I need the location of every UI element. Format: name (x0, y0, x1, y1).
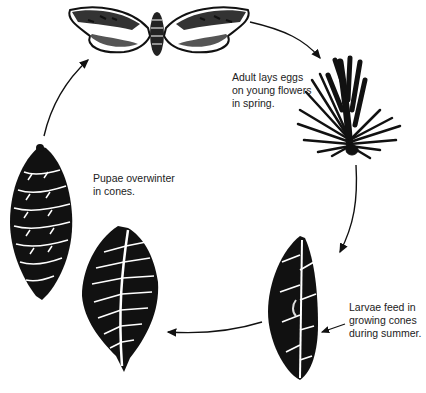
pine-shoot-icon (298, 58, 400, 158)
arrow-larvae-to-pupae (168, 322, 262, 333)
arrow-flower-to-larvae (340, 165, 356, 252)
arrow-pupae-to-adult (44, 60, 88, 136)
life-cycle-diagram: Adult lays eggs on young flowers in spri… (0, 0, 426, 393)
arrow-text-to-larvae (322, 324, 345, 332)
pupae-stage-label: Pupae overwinter in cones. (93, 172, 175, 198)
mature-cone-icon (10, 144, 72, 300)
larvae-stage-label: Larvae feed in growing cones during summ… (349, 301, 421, 340)
adult-stage-label: Adult lays eggs on young flowers in spri… (232, 71, 311, 110)
moth-icon (69, 7, 248, 56)
arrow-adult-to-flower (250, 22, 320, 58)
cone-cross-section-icon (82, 226, 158, 372)
infested-cone-icon (268, 236, 318, 380)
